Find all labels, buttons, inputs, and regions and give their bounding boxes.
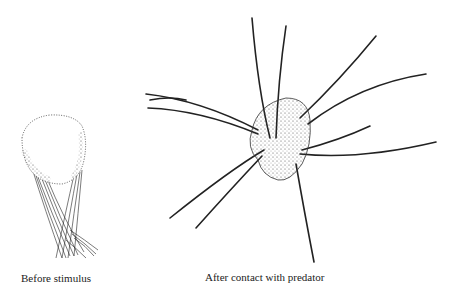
illustration-figure: Before stimulus After contact with preda… — [0, 0, 454, 296]
after-contact-drawing — [146, 18, 436, 262]
before-stimulus-drawing — [22, 115, 98, 258]
body-icon — [250, 98, 310, 180]
caption-before-stimulus: Before stimulus — [21, 272, 91, 284]
caption-after-contact: After contact with predator — [205, 271, 324, 283]
drawing-canvas — [0, 0, 454, 296]
